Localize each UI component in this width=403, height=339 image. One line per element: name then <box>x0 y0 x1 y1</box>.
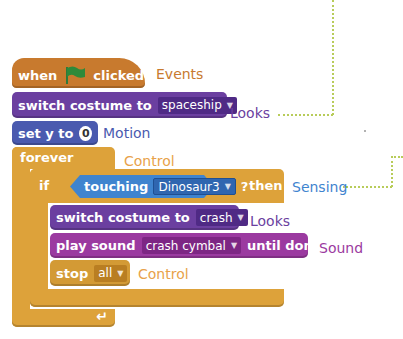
until-done-label: until done <box>247 238 321 253</box>
switch-costume-crash-block[interactable]: switch costume to crash▼ <box>50 205 239 230</box>
callout-line-sensing-top <box>391 156 403 158</box>
block-text: play sound <box>56 238 136 253</box>
category-label-looks-2: Looks <box>250 213 290 229</box>
block-text: touching <box>84 179 148 194</box>
play-sound-block[interactable]: play sound crash cymbal▼ until done <box>50 233 308 258</box>
category-label-sound: Sound <box>319 240 363 256</box>
block-text: switch costume to <box>18 98 152 113</box>
block-text: switch costume to <box>56 210 190 225</box>
costume-dropdown[interactable]: spaceship▼ <box>158 97 237 114</box>
forever-label: forever <box>20 150 74 165</box>
clicked-label: clicked <box>93 68 144 83</box>
stop-dropdown[interactable]: all▼ <box>94 265 127 282</box>
if-label: if <box>39 178 49 193</box>
when-flag-clicked-block[interactable]: when clicked <box>12 58 145 88</box>
block-text: stop <box>56 266 88 281</box>
callout-line-looks-horizontal <box>278 114 333 116</box>
stop-block[interactable]: stop all▼ <box>50 260 130 286</box>
category-label-events: Events <box>156 66 203 82</box>
chevron-down-icon: ▼ <box>117 269 123 278</box>
touching-block[interactable]: touching Dinosaur3▼ ? <box>70 175 214 198</box>
costume-dropdown[interactable]: crash▼ <box>196 209 248 226</box>
set-y-block[interactable]: set y to 0 <box>12 121 98 145</box>
then-label: then <box>249 178 283 193</box>
chevron-down-icon: ▼ <box>231 241 237 250</box>
block-text: set y to <box>18 126 73 141</box>
callout-line-looks-vertical <box>332 0 334 115</box>
switch-costume-block[interactable]: switch costume to spaceship▼ <box>12 92 227 118</box>
callout-line-sensing-vertical <box>391 156 393 187</box>
category-label-control-2: Control <box>138 266 189 282</box>
category-label-motion: Motion <box>103 125 150 141</box>
y-value-input[interactable]: 0 <box>79 126 92 141</box>
category-label-looks: Looks <box>230 105 270 121</box>
sound-dropdown[interactable]: crash cymbal▼ <box>142 237 241 254</box>
chevron-down-icon: ▼ <box>225 182 231 191</box>
when-label: when <box>18 68 57 83</box>
green-flag-icon <box>63 65 87 85</box>
question-mark: ? <box>241 179 249 194</box>
chevron-down-icon: ▼ <box>238 213 244 222</box>
loop-arrow-icon: ↵ <box>96 308 108 324</box>
stray-dot <box>364 130 366 132</box>
callout-line-sensing-horizontal <box>343 186 392 188</box>
category-label-control: Control <box>124 153 175 169</box>
sprite-dropdown[interactable]: Dinosaur3▼ <box>153 178 235 195</box>
category-label-sensing: Sensing <box>292 179 347 195</box>
